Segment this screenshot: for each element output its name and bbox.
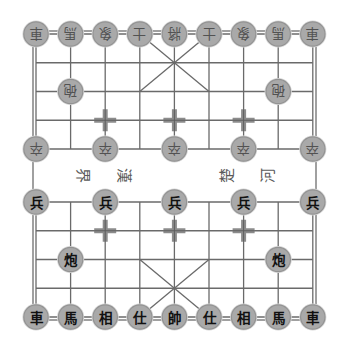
- piece-red-cannon[interactable]: 炮: [265, 246, 292, 273]
- piece-black-soldier[interactable]: 卒: [161, 135, 188, 162]
- piece-label: 帥: [168, 310, 181, 326]
- piece-label: 卒: [30, 141, 43, 157]
- piece-label: 卒: [99, 141, 112, 157]
- piece-label: 仕: [132, 310, 147, 326]
- piece-red-soldier[interactable]: 兵: [161, 188, 188, 215]
- piece-label: 卒: [168, 141, 181, 157]
- piece-label: 兵: [168, 195, 182, 211]
- piece-black-soldier[interactable]: 卒: [230, 135, 257, 162]
- piece-black-horse[interactable]: 馬: [265, 20, 292, 47]
- piece-black-soldier[interactable]: 卒: [92, 135, 119, 162]
- piece-black-chariot[interactable]: 車: [299, 20, 326, 47]
- piece-label: 砲: [272, 83, 285, 99]
- piece-label: 卒: [306, 141, 319, 157]
- piece-label: 兵: [306, 195, 320, 211]
- piece-red-advisor[interactable]: 仕: [195, 303, 222, 330]
- piece-red-elephant[interactable]: 相: [92, 303, 119, 330]
- piece-red-soldier[interactable]: 兵: [230, 188, 257, 215]
- piece-red-horse[interactable]: 馬: [57, 303, 84, 330]
- piece-black-cannon[interactable]: 砲: [57, 78, 84, 105]
- piece-label: 士: [133, 26, 146, 42]
- piece-black-cannon[interactable]: 砲: [265, 78, 292, 105]
- piece-label: 象: [237, 26, 250, 42]
- piece-black-soldier[interactable]: 卒: [22, 135, 49, 162]
- piece-red-soldier[interactable]: 兵: [22, 188, 49, 215]
- piece-label: 馬: [64, 26, 77, 42]
- piece-red-elephant[interactable]: 相: [230, 303, 257, 330]
- river-text-jie: 界: [74, 168, 92, 183]
- piece-label: 士: [203, 26, 216, 42]
- river-text-he: 河: [259, 168, 277, 183]
- piece-label: 馬: [272, 310, 285, 326]
- piece-red-soldier[interactable]: 兵: [92, 188, 119, 215]
- piece-label: 相: [99, 310, 112, 326]
- piece-black-horse[interactable]: 馬: [57, 20, 84, 47]
- piece-red-cannon[interactable]: 炮: [57, 246, 84, 273]
- piece-black-chariot[interactable]: 車: [22, 20, 49, 47]
- piece-red-general[interactable]: 帥: [161, 303, 188, 330]
- piece-label: 車: [30, 310, 44, 326]
- piece-red-chariot[interactable]: 車: [22, 303, 49, 330]
- piece-black-general[interactable]: 將: [161, 20, 188, 47]
- piece-label: 仕: [202, 310, 217, 326]
- piece-label: 炮: [64, 252, 78, 268]
- xiangqi-board: 界 漢 楚 河 車馬象士將士象馬車砲砲卒卒卒卒卒兵兵兵兵兵炮炮車馬相仕帥仕相馬車: [0, 0, 348, 348]
- piece-black-advisor[interactable]: 士: [126, 20, 153, 47]
- piece-label: 兵: [237, 195, 251, 211]
- piece-black-soldier[interactable]: 卒: [299, 135, 326, 162]
- piece-label: 炮: [272, 252, 286, 268]
- piece-label: 象: [99, 26, 112, 42]
- piece-label: 車: [306, 310, 320, 326]
- piece-red-advisor[interactable]: 仕: [126, 303, 153, 330]
- piece-label: 相: [237, 310, 250, 326]
- piece-label: 兵: [30, 195, 44, 211]
- piece-red-chariot[interactable]: 車: [299, 303, 326, 330]
- piece-label: 馬: [272, 26, 285, 42]
- piece-label: 兵: [99, 195, 113, 211]
- piece-label: 車: [306, 26, 319, 42]
- piece-label: 將: [168, 26, 181, 42]
- piece-label: 車: [30, 26, 43, 42]
- piece-black-elephant[interactable]: 象: [92, 20, 119, 47]
- river-text-han: 漢: [115, 168, 133, 183]
- piece-label: 砲: [64, 83, 77, 99]
- piece-black-elephant[interactable]: 象: [230, 20, 257, 47]
- piece-red-horse[interactable]: 馬: [265, 303, 292, 330]
- piece-black-advisor[interactable]: 士: [195, 20, 222, 47]
- piece-label: 馬: [64, 310, 77, 326]
- piece-label: 卒: [237, 141, 250, 157]
- piece-red-soldier[interactable]: 兵: [299, 188, 326, 215]
- river-text-chu: 楚: [218, 168, 236, 183]
